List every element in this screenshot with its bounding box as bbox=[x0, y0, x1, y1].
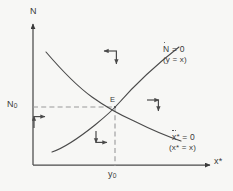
x-star-dot-nullcline-label: x* = 0 bbox=[172, 133, 195, 142]
n-dot-nullcline-label: N = 0 bbox=[163, 45, 185, 54]
y-tick-subscript: 0 bbox=[14, 102, 18, 109]
equilibrium-point-marker bbox=[114, 106, 116, 108]
arrow-bottom-quadrant bbox=[96, 131, 107, 143]
arrow-top-quadrant bbox=[104, 51, 117, 64]
x-star-dot-symbol: x bbox=[172, 133, 176, 142]
y-axis-label: N bbox=[30, 7, 37, 16]
n-dot-symbol: N bbox=[163, 45, 169, 54]
arrow-left-quadrant bbox=[34, 116, 45, 128]
x-axis-tick-label-y0: y0 bbox=[108, 170, 117, 179]
figure-canvas bbox=[0, 0, 233, 191]
y-axis-tick-label-n0: N0 bbox=[7, 100, 18, 109]
equilibrium-point-label: E bbox=[110, 96, 115, 104]
x-axis-label-text: x* bbox=[214, 156, 222, 166]
x-star-dot-nullcline-sublabel: (x* = x) bbox=[169, 144, 196, 152]
n-dot-nullcline-sublabel: (y = x) bbox=[163, 56, 187, 64]
arrow-right-quadrant bbox=[147, 100, 159, 111]
x-axis-label: x* bbox=[214, 157, 222, 166]
phase-plane-figure: N x* N0 y0 E N = 0 (y = x) x* = 0 (x* = … bbox=[0, 0, 233, 191]
x-star-dot-nullcline-equation: = 0 bbox=[180, 132, 195, 142]
guide-lines-group bbox=[33, 107, 116, 166]
y-tick-base: N bbox=[7, 99, 14, 109]
n-dot-nullcline-equation: = 0 bbox=[169, 44, 184, 54]
x-tick-subscript: 0 bbox=[113, 172, 117, 179]
